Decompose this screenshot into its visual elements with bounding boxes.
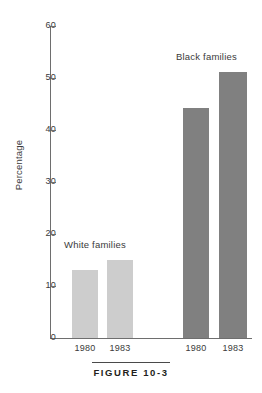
y-tick-0: 0 (0, 338, 56, 339)
group-label-black-families: Black families (176, 52, 237, 62)
x-axis-line (50, 338, 252, 339)
group-label-white-families: White families (64, 240, 126, 250)
y-tick-mark-30 (51, 182, 56, 183)
y-tick-label-0: 0 (10, 333, 56, 342)
figure-caption: FIGURE 10-3 (0, 362, 262, 378)
x-tick-label-white-1983: 1983 (99, 343, 141, 353)
bar-white-families-1983[interactable] (107, 260, 133, 338)
y-tick-label-10: 10 (10, 281, 56, 290)
y-tick-mark-20 (51, 234, 56, 235)
bar-white-families-1980[interactable] (72, 270, 98, 338)
y-axis-title: Percentage (14, 130, 24, 200)
y-tick-mark-60 (51, 26, 56, 27)
y-tick-50: 50 (0, 78, 56, 79)
y-tick-40: 40 (0, 130, 56, 131)
bar-chart-plot-area: Percentage 60 50 40 30 20 10 0 (0, 0, 262, 352)
y-tick-30: 30 (0, 182, 56, 183)
bar-black-families-1980[interactable] (183, 108, 209, 338)
figure-10-3: Percentage 60 50 40 30 20 10 0 (0, 0, 262, 393)
y-tick-label-60: 60 (10, 21, 56, 30)
y-tick-mark-40 (51, 130, 56, 131)
y-tick-60: 60 (0, 26, 56, 27)
y-tick-label-30: 30 (10, 177, 56, 186)
y-tick-20: 20 (0, 234, 56, 235)
bar-black-families-1983[interactable] (219, 72, 247, 338)
y-tick-10: 10 (0, 286, 56, 287)
y-tick-label-40: 40 (10, 125, 56, 134)
y-tick-mark-10 (51, 286, 56, 287)
x-tick-label-black-1980: 1980 (175, 343, 217, 353)
caption-text: FIGURE 10-3 (0, 367, 262, 378)
y-tick-label-20: 20 (10, 229, 56, 238)
x-tick-label-black-1983: 1983 (212, 343, 254, 353)
caption-rule (92, 362, 170, 363)
y-tick-mark-50 (51, 78, 56, 79)
y-tick-label-50: 50 (10, 73, 56, 82)
